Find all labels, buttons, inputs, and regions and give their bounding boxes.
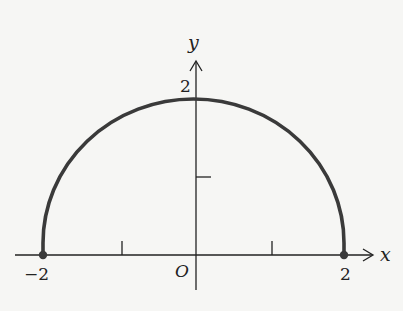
y-axis-label: y bbox=[188, 33, 199, 52]
semicircle-curve bbox=[43, 99, 344, 255]
x-tick-label-2: 2 bbox=[340, 266, 351, 283]
endpoint-right bbox=[340, 251, 348, 259]
y-tick-label-2: 2 bbox=[180, 78, 191, 95]
endpoint-left bbox=[39, 251, 47, 259]
figure: y x 2 −2 2 O bbox=[0, 0, 403, 311]
x-tick-label-neg2: −2 bbox=[24, 266, 49, 283]
x-axis-label: x bbox=[380, 245, 391, 264]
origin-label: O bbox=[175, 263, 189, 280]
